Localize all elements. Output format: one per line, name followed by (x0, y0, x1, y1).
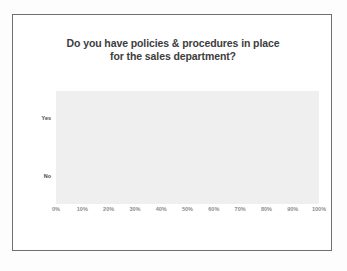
chart-plot-area: Yes No (56, 91, 319, 204)
chart-title-line-1: Do you have policies & procedures in pla… (27, 37, 319, 50)
x-tick-label: 50% (182, 206, 193, 212)
x-tick-label: 90% (287, 206, 298, 212)
x-tick-label: 20% (103, 206, 114, 212)
x-tick-label: 70% (235, 206, 246, 212)
slide-frame: Do you have policies & procedures in pla… (12, 14, 332, 251)
x-tick-label: 100% (312, 206, 326, 212)
category-label-yes: Yes (42, 115, 51, 121)
chart-title: Do you have policies & procedures in pla… (27, 37, 319, 63)
x-tick-label: 30% (129, 206, 140, 212)
x-tick-label: 0% (52, 206, 60, 212)
x-tick-label: 80% (261, 206, 272, 212)
x-tick-label: 40% (156, 206, 167, 212)
x-tick-label: 60% (208, 206, 219, 212)
chart-title-line-2: for the sales department? (27, 50, 319, 63)
category-label-no: No (44, 173, 51, 179)
x-tick-label: 10% (77, 206, 88, 212)
x-axis-tick-labels: 0%10%20%30%40%50%60%70%80%90%100% (56, 206, 319, 218)
chart-bars-container: Yes No (56, 91, 319, 204)
